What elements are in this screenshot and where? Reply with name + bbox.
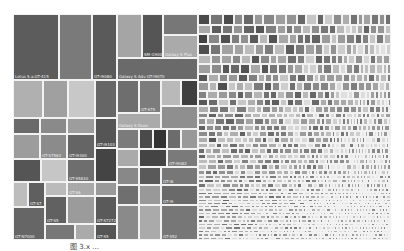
- treemap-tile: [279, 74, 289, 82]
- treemap-tile: [262, 106, 271, 113]
- treemap-tile: [139, 167, 161, 185]
- treemap-tile: [117, 185, 139, 205]
- tile-label: GT-S75: [141, 107, 155, 112]
- treemap-tile: [211, 64, 222, 74]
- treemap-tile: [198, 25, 211, 34]
- treemap-tile: [284, 106, 292, 113]
- treemap-tile: [181, 129, 198, 149]
- treemap-tile: [41, 159, 67, 182]
- faded-header-text: [210, 2, 390, 12]
- treemap-tile: [75, 224, 95, 240]
- treemap-tile: [161, 80, 181, 106]
- treemap-tile: [333, 14, 342, 25]
- treemap-tile: GT-N7000: [13, 207, 45, 240]
- treemap-tile: [311, 99, 320, 106]
- treemap-tile: [278, 64, 287, 74]
- treemap-tile: [285, 91, 294, 99]
- tile-label: GT-S5: [97, 234, 109, 239]
- treemap-tile: [278, 34, 289, 44]
- treemap-tile: [326, 74, 335, 82]
- treemap-tile: [221, 44, 234, 55]
- treemap-tile: [218, 99, 229, 106]
- treemap-tile: [337, 44, 346, 55]
- treemap-tile: [13, 182, 28, 207]
- treemap-tile: [297, 14, 306, 25]
- treemap-tile: [286, 14, 297, 25]
- treemap-tile: [233, 25, 243, 34]
- treemap-tile: [209, 82, 217, 91]
- treemap-tile: GT-i9082: [167, 149, 198, 167]
- treemap-tile: [376, 34, 384, 44]
- treemap-tile: [225, 118, 235, 125]
- tile-label: GT-S5830: [69, 176, 88, 181]
- treemap-tile: [329, 25, 336, 34]
- treemap-tile: [287, 55, 297, 64]
- treemap-tile: [240, 34, 249, 44]
- treemap-tile: [207, 91, 218, 99]
- treemap-tile: [294, 91, 302, 99]
- tile-label: GT-i9082: [169, 161, 187, 166]
- treemap-tile: [303, 99, 311, 106]
- treemap-tile: [320, 99, 327, 106]
- tile-label: SM-G9008: [144, 52, 163, 57]
- treemap-tile: [323, 55, 331, 64]
- treemap-tile: [247, 99, 256, 106]
- treemap-tile: [198, 99, 208, 106]
- treemap-tile: [245, 118, 254, 125]
- tile-label: GT-S6: [69, 190, 81, 195]
- treemap-tile: [263, 14, 275, 25]
- treemap-tile: [219, 74, 228, 82]
- treemap-tile: [296, 82, 303, 91]
- treemap-tile: [320, 82, 329, 91]
- treemap-tile: [385, 14, 391, 25]
- treemap-tile: [236, 82, 244, 91]
- treemap-tile: [117, 149, 139, 167]
- treemap-tile: [387, 74, 391, 82]
- treemap-tile: [210, 237, 217, 240]
- treemap-tile: [228, 74, 238, 82]
- treemap-tile: [248, 74, 258, 82]
- treemap-tile: [321, 34, 331, 44]
- treemap-tile: [294, 64, 303, 74]
- treemap-tile: [117, 129, 139, 149]
- treemap-tile: [234, 44, 244, 55]
- treemap-tile: [355, 55, 363, 64]
- treemap-tile: [340, 91, 348, 99]
- treemap-tile: GT-S5: [45, 196, 67, 224]
- treemap-tile: [249, 237, 256, 240]
- treemap-tile: [306, 14, 317, 25]
- treemap-tile: [350, 14, 358, 25]
- treemap-tile: [208, 34, 220, 44]
- treemap-tile: [297, 55, 305, 64]
- treemap-tile: [337, 34, 346, 44]
- treemap-tile: [40, 118, 67, 134]
- treemap-tile: [343, 74, 350, 82]
- treemap-tile: [275, 14, 286, 25]
- treemap-tile: [280, 99, 287, 106]
- treemap-tile: [376, 55, 383, 64]
- treemap-tile: [139, 129, 153, 149]
- treemap-tile: [117, 14, 142, 58]
- treemap-tile: [255, 25, 265, 34]
- treemap-tile: [209, 106, 219, 113]
- treemap-tile: [117, 205, 139, 240]
- treemap-tile: [270, 118, 278, 125]
- treemap-tile: [264, 82, 272, 91]
- treemap-tile: [340, 99, 347, 106]
- treemap-tile: Galaxy S Adv GT-I9070: [117, 58, 198, 80]
- treemap-tile: [253, 91, 263, 99]
- treemap-tile: [324, 14, 333, 25]
- treemap-tile: [198, 118, 206, 125]
- treemap-tile: GT-S7: [28, 182, 45, 207]
- treemap-tile: [387, 91, 391, 99]
- treemap-tile: [274, 44, 285, 55]
- treemap-tile: [211, 55, 221, 64]
- treemap-tile: [198, 44, 210, 55]
- treemap-tile: [13, 80, 43, 118]
- treemap-tile: [181, 80, 198, 106]
- treemap-tile: [289, 82, 296, 91]
- treemap-tile: [362, 106, 369, 113]
- treemap-tile: [198, 34, 208, 44]
- treemap-tile: [284, 118, 292, 125]
- treemap-tile: [229, 99, 237, 106]
